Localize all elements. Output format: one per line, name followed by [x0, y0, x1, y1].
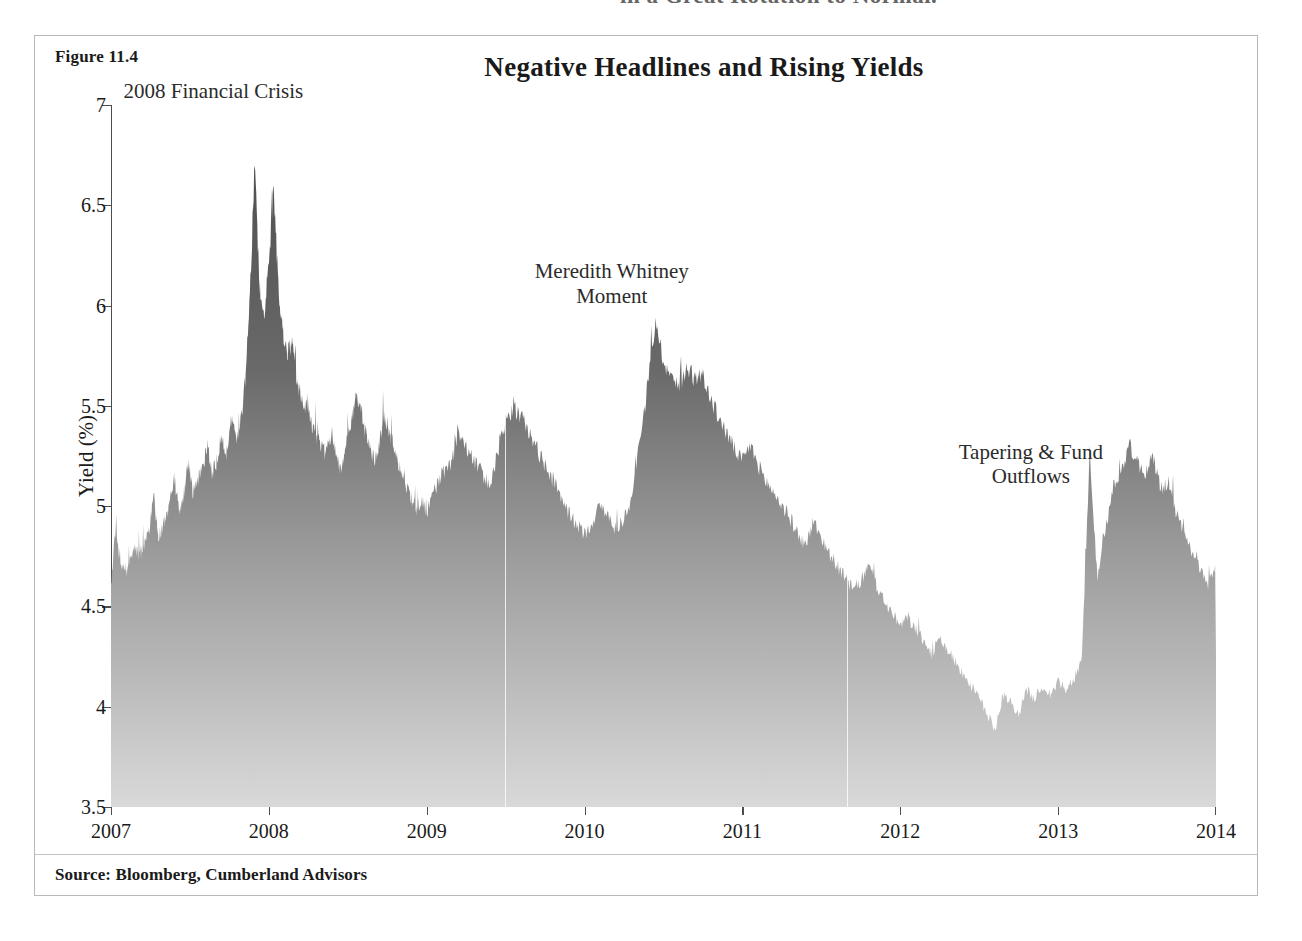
page-top-text-fragment: in a Great Rotation to Normal.: [0, 0, 1302, 14]
annotation-crisis-2008: 2008 Financial Crisis: [124, 79, 304, 104]
source-divider: [35, 854, 1257, 855]
source-note: Source: Bloomberg, Cumberland Advisors: [55, 865, 367, 885]
x-tick-label: 2011: [723, 820, 762, 843]
top-fragment-text: in a Great Rotation to Normal.: [620, 0, 937, 9]
x-tick-mark: [900, 807, 901, 815]
x-tick-mark: [585, 807, 586, 815]
scan-artifact-line: [847, 105, 848, 807]
x-tick-label: 2012: [880, 820, 920, 843]
x-tick-mark: [1058, 807, 1059, 815]
figure-container: Figure 11.4 Negative Headlines and Risin…: [34, 35, 1258, 896]
x-tick-label: 2014: [1196, 820, 1236, 843]
annotation-tapering: Tapering & Fund Outflows: [918, 440, 1144, 490]
x-tick-label: 2007: [91, 820, 131, 843]
x-tick-label: 2009: [407, 820, 447, 843]
chart-title-text: Negative Headlines and Rising Yields: [484, 52, 923, 83]
x-tick-mark: [111, 807, 112, 815]
x-tick-label: 2013: [1038, 820, 1078, 843]
annotation-meredith-whitney: Meredith Whitney Moment: [535, 259, 689, 309]
x-tick-mark: [427, 807, 428, 815]
x-tick-mark: [742, 807, 743, 815]
x-tick-label: 2008: [249, 820, 289, 843]
scan-artifact-line: [505, 105, 506, 807]
x-tick-mark: [269, 807, 270, 815]
x-tick-mark: [1215, 807, 1216, 815]
y-axis-title: Yield (%): [74, 415, 99, 497]
x-tick-label: 2010: [565, 820, 605, 843]
